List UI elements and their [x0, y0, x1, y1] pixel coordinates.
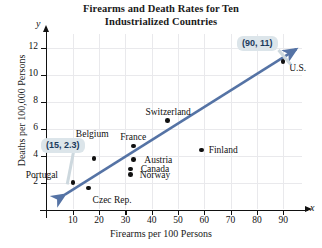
y-axis-tick	[41, 156, 47, 157]
data-point-label: France	[120, 132, 146, 142]
data-point	[128, 172, 133, 177]
y-axis-tick	[41, 183, 47, 184]
y-axis-tick	[41, 129, 47, 130]
y-axis-tick	[41, 75, 47, 76]
data-point-label: Portugal	[26, 170, 58, 180]
y-axis-arrow-icon	[43, 25, 49, 32]
x-axis-tick-label: 90	[271, 215, 295, 225]
coordinate-callout: (90, 11)	[237, 36, 278, 51]
data-point	[131, 157, 136, 162]
y-axis-tick	[41, 102, 47, 103]
y-axis-letter: y	[36, 18, 40, 29]
data-point	[165, 118, 170, 123]
x-axis-tick-label: 60	[192, 215, 216, 225]
data-point	[131, 144, 136, 149]
x-axis-line	[40, 210, 308, 211]
x-axis-tick-label: 70	[219, 215, 243, 225]
data-point-label: Finland	[209, 145, 238, 155]
x-axis-letter: x	[310, 202, 314, 213]
y-axis-title: Deaths per 100,000 Persons	[16, 31, 27, 191]
x-axis-tick-label: 10	[61, 215, 85, 225]
data-point-label: Austria	[144, 155, 172, 165]
coordinate-callout: (15, 2.3)	[41, 138, 85, 153]
data-point-label: Canada	[141, 164, 170, 174]
data-point	[92, 156, 97, 161]
y-axis-tick	[41, 48, 47, 49]
x-axis-tick-label: 20	[87, 215, 111, 225]
data-point-label: Switzerland	[145, 107, 190, 117]
x-axis-tick-label: 50	[166, 215, 190, 225]
data-point-label: U.S.	[289, 63, 306, 73]
chart-figure: Firearms and Death Rates for Ten Industr…	[0, 0, 322, 248]
x-axis-tick-label: 30	[113, 215, 137, 225]
data-point	[71, 180, 76, 185]
data-point-label: Czec Rep.	[93, 195, 132, 205]
x-axis-tick-label: 40	[140, 215, 164, 225]
y-axis-line	[46, 32, 47, 218]
x-axis-title: Firearms per 100 Persons	[0, 228, 322, 239]
x-axis-tick-label: 80	[245, 215, 269, 225]
data-point	[86, 186, 91, 191]
